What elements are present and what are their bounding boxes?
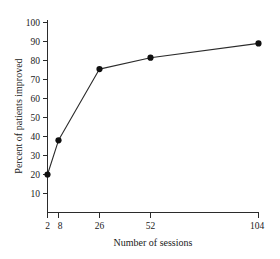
- x-tick-label-104: 104: [250, 221, 265, 231]
- x-axis-ticks: [48, 213, 259, 218]
- y-axis-tick-labels: 100 90 80 70 60 50 40 30 20 10: [26, 18, 41, 199]
- data-point-26: [96, 66, 102, 72]
- y-tick-label-10: 10: [31, 189, 41, 199]
- x-axis-tick-labels: 2 8 26 52 104: [45, 221, 264, 231]
- y-tick-label-60: 60: [31, 94, 41, 104]
- line-chart: 100 90 80 70 60 50 40 30 20 10 2 8 26 52…: [0, 0, 280, 259]
- data-series-line: [48, 43, 259, 174]
- y-tick-label-80: 80: [31, 56, 41, 66]
- y-tick-label-100: 100: [26, 18, 41, 28]
- y-tick-label-30: 30: [31, 151, 41, 161]
- data-point-8: [55, 137, 61, 143]
- x-tick-label-52: 52: [146, 221, 156, 231]
- data-point-104: [255, 40, 261, 46]
- x-tick-label-2: 2: [45, 221, 50, 231]
- data-point-2: [44, 171, 50, 177]
- y-tick-label-50: 50: [31, 113, 41, 123]
- y-tick-label-40: 40: [31, 132, 41, 142]
- y-tick-label-70: 70: [31, 75, 41, 85]
- x-axis-title: Number of sessions: [114, 237, 193, 248]
- y-tick-label-20: 20: [31, 170, 41, 180]
- x-tick-label-26: 26: [95, 221, 105, 231]
- y-axis-title: Percent of patients improved: [13, 58, 24, 173]
- data-point-52: [147, 55, 153, 61]
- chart-figure: 100 90 80 70 60 50 40 30 20 10 2 8 26 52…: [0, 0, 280, 259]
- x-tick-label-8: 8: [58, 221, 63, 231]
- y-tick-label-90: 90: [31, 37, 41, 47]
- y-axis-ticks: [43, 23, 48, 194]
